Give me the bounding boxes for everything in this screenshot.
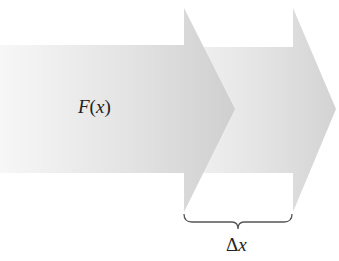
fx-paren-close: ) — [104, 96, 110, 117]
brace-icon — [184, 214, 292, 229]
fx-label: F(x) — [78, 96, 111, 118]
arrow-original — [0, 8, 235, 212]
delta-symbol: Δ — [226, 234, 238, 255]
diagram-canvas — [0, 0, 339, 261]
fx-func: F — [78, 96, 90, 117]
arrow-original-body — [0, 8, 235, 212]
dx-var: x — [238, 234, 246, 255]
delta-x-label: Δx — [226, 234, 247, 256]
